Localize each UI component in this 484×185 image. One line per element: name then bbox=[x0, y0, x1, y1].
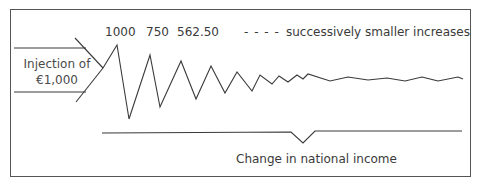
national-income-brace bbox=[102, 131, 462, 143]
continuation-label: successively smaller increases bbox=[286, 26, 470, 38]
round-label-2: 750 bbox=[146, 26, 169, 38]
injection-label-line1: Injection of bbox=[14, 56, 100, 72]
injection-label: Injection of €1,000 bbox=[14, 56, 100, 88]
brace-label: Change in national income bbox=[236, 153, 397, 165]
continuation-dashes: - - - - bbox=[244, 26, 280, 38]
multiplier-zigzag-line bbox=[103, 45, 463, 119]
round-label-1: 1000 bbox=[105, 26, 136, 38]
round-label-3: 562.50 bbox=[177, 26, 219, 38]
injection-amount: €1,000 bbox=[14, 72, 100, 88]
